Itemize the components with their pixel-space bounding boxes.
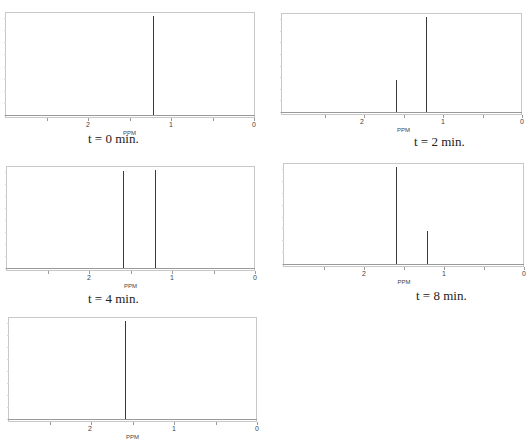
spectrum-peak xyxy=(153,16,154,115)
x-tick xyxy=(364,115,365,118)
spectrum-baseline xyxy=(283,264,524,265)
x-axis-label: PPM xyxy=(397,279,410,285)
y-tick xyxy=(4,42,6,43)
panel-caption: t = 2 min. xyxy=(414,134,465,150)
panel-caption: t = 0 min. xyxy=(88,131,139,147)
y-tick xyxy=(7,359,9,360)
spectrum-peak xyxy=(123,171,124,268)
x-tick-label: 1 xyxy=(441,118,445,125)
x-tick xyxy=(130,118,131,121)
x-tick-label: 1 xyxy=(172,425,176,432)
y-tick xyxy=(280,42,282,43)
y-tick xyxy=(5,232,7,233)
x-tick xyxy=(404,267,405,270)
x-tick-label: 1 xyxy=(442,270,446,277)
x-tick-label: 2 xyxy=(87,274,91,281)
x-axis-label: PPM xyxy=(397,127,410,133)
x-tick-label: 0 xyxy=(522,270,526,277)
x-tick xyxy=(216,422,217,425)
x-tick-label: 1 xyxy=(170,274,174,281)
spectrum-baseline xyxy=(5,115,255,116)
y-tick xyxy=(282,205,284,206)
x-tick-label: 2 xyxy=(360,118,364,125)
y-tick xyxy=(4,54,6,55)
y-tick xyxy=(5,208,7,209)
spectrum-baseline xyxy=(8,419,257,420)
y-tick xyxy=(280,19,282,20)
panel-caption: t = 4 min. xyxy=(88,291,139,307)
y-tick xyxy=(282,193,284,194)
x-tick xyxy=(131,271,132,274)
x-tick-label: 0 xyxy=(252,121,256,128)
x-tick-label: 2 xyxy=(362,270,366,277)
y-tick xyxy=(7,395,9,396)
y-tick xyxy=(4,91,6,92)
spectrum-peak xyxy=(427,231,428,264)
y-tick xyxy=(282,240,284,241)
plot-frame xyxy=(283,163,524,267)
plot-frame xyxy=(6,166,255,271)
x-tick xyxy=(483,115,484,118)
y-tick xyxy=(5,172,7,173)
spectrum-peak xyxy=(125,321,126,419)
y-tick xyxy=(5,220,7,221)
y-tick xyxy=(280,66,282,67)
y-tick xyxy=(4,79,6,80)
x-tick-label: 0 xyxy=(255,425,259,432)
y-tick xyxy=(282,228,284,229)
y-tick xyxy=(280,89,282,90)
spectrum-peak xyxy=(396,80,397,112)
y-tick xyxy=(282,181,284,182)
y-tick xyxy=(280,100,282,101)
y-tick xyxy=(280,31,282,32)
spectrum-peak xyxy=(155,170,156,268)
y-tick xyxy=(4,67,6,68)
x-tick xyxy=(47,118,48,121)
y-tick xyxy=(282,252,284,253)
x-axis-label: PPM xyxy=(124,283,137,289)
y-tick xyxy=(7,383,9,384)
x-tick xyxy=(324,267,325,270)
plot-frame xyxy=(8,317,257,422)
y-tick xyxy=(5,256,7,257)
x-tick-label: 0 xyxy=(520,118,524,125)
x-axis-label: PPM xyxy=(126,434,139,440)
y-tick xyxy=(4,103,6,104)
y-tick xyxy=(280,77,282,78)
x-tick-label: 2 xyxy=(88,425,92,432)
y-tick xyxy=(7,323,9,324)
x-tick xyxy=(50,422,51,425)
x-tick-label: 1 xyxy=(169,121,173,128)
plot-frame xyxy=(5,12,255,118)
x-tick xyxy=(48,271,49,274)
x-tick xyxy=(133,422,134,425)
x-tick-label: 2 xyxy=(86,121,90,128)
plot-frame xyxy=(281,13,522,115)
y-tick xyxy=(4,18,6,19)
panel-caption: t = 8 min. xyxy=(416,288,467,304)
spectrum-peak xyxy=(396,167,397,264)
y-tick xyxy=(4,30,6,31)
x-tick xyxy=(404,115,405,118)
x-tick xyxy=(325,115,326,118)
y-tick xyxy=(280,54,282,55)
x-tick xyxy=(213,118,214,121)
spectrum-baseline xyxy=(281,112,522,113)
spectrum-baseline xyxy=(6,268,255,269)
y-tick xyxy=(5,184,7,185)
x-tick-label: 0 xyxy=(253,274,257,281)
x-tick xyxy=(214,271,215,274)
y-tick xyxy=(5,196,7,197)
y-tick xyxy=(282,169,284,170)
y-tick xyxy=(7,371,9,372)
spectrum-peak xyxy=(426,17,427,112)
y-tick xyxy=(5,244,7,245)
y-tick xyxy=(7,407,9,408)
x-tick xyxy=(484,267,485,270)
y-tick xyxy=(7,335,9,336)
y-tick xyxy=(282,217,284,218)
y-tick xyxy=(7,347,9,348)
